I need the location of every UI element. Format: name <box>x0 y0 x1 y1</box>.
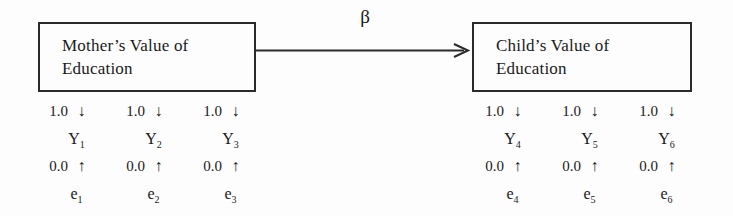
construct-mother-line1: Mother’s Value of <box>62 34 254 57</box>
loading-row: 1.0 ↓ <box>543 102 620 120</box>
arrow-down-icon: ↓ <box>665 102 678 120</box>
observed-variable-label: Y1 <box>68 130 85 148</box>
error-term-label: e2 <box>147 185 159 203</box>
variable-row: Y1 <box>30 130 107 148</box>
error-term-label: e3 <box>224 185 236 203</box>
construct-child-line2: Education <box>496 57 690 80</box>
loading-value: 1.0 <box>485 102 504 120</box>
path-diagram: Mother’s Value of Education β Child’s Va… <box>0 0 733 216</box>
error-value-row: 0.0 ↑ <box>543 157 620 175</box>
observed-variable-label: Y3 <box>222 130 239 148</box>
error-value-row: 0.0 ↑ <box>184 157 261 175</box>
error-value: 0.0 <box>562 157 581 175</box>
loading-row: 1.0 ↓ <box>107 102 184 120</box>
arrow-up-icon: ↑ <box>152 157 165 175</box>
loading-value: 1.0 <box>639 102 658 120</box>
loading-value: 1.0 <box>126 102 145 120</box>
arrow-down-icon: ↓ <box>229 102 242 120</box>
error-value-row: 0.0 ↑ <box>107 157 184 175</box>
error-value: 0.0 <box>126 157 145 175</box>
error-value-row: 0.0 ↑ <box>466 157 543 175</box>
arrow-down-icon: ↓ <box>511 102 524 120</box>
loading-row: 1.0 ↓ <box>466 102 543 120</box>
indicator-column: 1.0 ↓ Y3 0.0 ↑ e3 <box>184 100 261 216</box>
loading-row: 1.0 ↓ <box>620 102 697 120</box>
error-row: e5 <box>543 185 620 203</box>
observed-variable-label: Y4 <box>504 130 521 148</box>
error-value: 0.0 <box>485 157 504 175</box>
construct-mother-line2: Education <box>62 57 254 80</box>
error-row: e6 <box>620 185 697 203</box>
indicator-group-mother: 1.0 ↓ Y1 0.0 ↑ e1 1.0 ↓ Y2 0.0 <box>30 100 261 216</box>
arrow-up-icon: ↑ <box>665 157 678 175</box>
construct-box-mother: Mother’s Value of Education <box>38 22 256 92</box>
arrow-up-icon: ↑ <box>229 157 242 175</box>
path-coefficient-label: β <box>256 6 474 28</box>
observed-variable-label: Y2 <box>145 130 162 148</box>
arrow-up-icon: ↑ <box>511 157 524 175</box>
error-value-row: 0.0 ↑ <box>30 157 107 175</box>
indicator-column: 1.0 ↓ Y5 0.0 ↑ e5 <box>543 100 620 216</box>
variable-row: Y3 <box>184 130 261 148</box>
indicator-column: 1.0 ↓ Y4 0.0 ↑ e4 <box>466 100 543 216</box>
error-term-label: e1 <box>70 185 82 203</box>
observed-variable-label: Y5 <box>581 130 598 148</box>
loading-value: 1.0 <box>562 102 581 120</box>
error-row: e4 <box>466 185 543 203</box>
indicator-column: 1.0 ↓ Y6 0.0 ↑ e6 <box>620 100 697 216</box>
error-row: e3 <box>184 185 261 203</box>
error-row: e1 <box>30 185 107 203</box>
variable-row: Y5 <box>543 130 620 148</box>
loading-row: 1.0 ↓ <box>30 102 107 120</box>
observed-variable-label: Y6 <box>658 130 675 148</box>
error-value: 0.0 <box>49 157 68 175</box>
error-row: e2 <box>107 185 184 203</box>
arrow-up-icon: ↑ <box>588 157 601 175</box>
indicator-column: 1.0 ↓ Y1 0.0 ↑ e1 <box>30 100 107 216</box>
path-arrow-icon <box>256 34 474 68</box>
loading-value: 1.0 <box>49 102 68 120</box>
arrow-down-icon: ↓ <box>75 102 88 120</box>
variable-row: Y6 <box>620 130 697 148</box>
variable-row: Y2 <box>107 130 184 148</box>
error-term-label: e6 <box>660 185 672 203</box>
construct-child-line1: Child’s Value of <box>496 34 690 57</box>
error-term-label: e4 <box>506 185 518 203</box>
error-value: 0.0 <box>203 157 222 175</box>
indicator-group-child: 1.0 ↓ Y4 0.0 ↑ e4 1.0 ↓ Y5 0.0 <box>466 100 697 216</box>
arrow-down-icon: ↓ <box>152 102 165 120</box>
construct-box-child: Child’s Value of Education <box>472 22 692 92</box>
arrow-up-icon: ↑ <box>75 157 88 175</box>
arrow-down-icon: ↓ <box>588 102 601 120</box>
loading-value: 1.0 <box>203 102 222 120</box>
error-term-label: e5 <box>583 185 595 203</box>
indicator-column: 1.0 ↓ Y2 0.0 ↑ e2 <box>107 100 184 216</box>
loading-row: 1.0 ↓ <box>184 102 261 120</box>
error-value: 0.0 <box>639 157 658 175</box>
variable-row: Y4 <box>466 130 543 148</box>
error-value-row: 0.0 ↑ <box>620 157 697 175</box>
